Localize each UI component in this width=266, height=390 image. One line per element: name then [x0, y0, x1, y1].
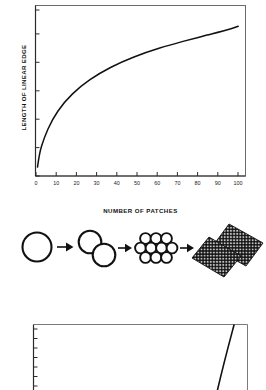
top-chart-plot [0, 0, 266, 200]
arrow-right-icon [57, 243, 74, 252]
figure-root: LENGTH OF LINEAR EDGE [0, 0, 266, 390]
top-chart-y-axis-label: LENGTH OF LINEAR EDGE [20, 20, 27, 156]
bottom-chart-plot [0, 312, 266, 390]
top-chart-panel: LENGTH OF LINEAR EDGE [0, 0, 266, 222]
schematic-stage-4-dense-patch-mosaic [192, 224, 263, 277]
x-tick-label: 40 [114, 180, 120, 186]
x-tick-label: 70 [174, 180, 180, 186]
x-tick-label: 60 [154, 180, 160, 186]
x-tick-label: 90 [215, 180, 221, 186]
top-chart-x-tick-labels: 0 10 20 30 40 50 60 70 80 90 100 [0, 180, 266, 190]
schematic-stage-2-two-circles [79, 231, 116, 267]
schematic-stage-3-circle-cluster [135, 233, 177, 263]
x-tick-label: 30 [94, 180, 100, 186]
x-tick-label: 0 [35, 180, 38, 186]
x-tick-label: 10 [53, 180, 59, 186]
top-chart-x-axis-label: NUMBER OF PATCHES [35, 207, 246, 214]
arrow-right-icon [118, 244, 132, 252]
top-chart-frame [36, 6, 246, 177]
arrow-right-icon [180, 244, 194, 252]
x-tick-label: 80 [195, 180, 201, 186]
aggregation-schematic-panel [0, 220, 266, 310]
bottom-chart-series-line [218, 325, 235, 390]
aggregation-schematic [0, 220, 266, 310]
x-tick-label: 100 [234, 180, 243, 186]
x-tick-label: 50 [134, 180, 140, 186]
schematic-stage-1-single-circle [23, 233, 52, 262]
x-tick-label: 20 [73, 180, 79, 186]
bottom-chart-panel: E [0, 312, 266, 390]
